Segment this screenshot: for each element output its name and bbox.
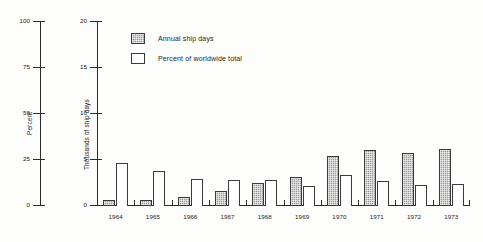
x-axis-label-1971: 1971 [358,213,395,220]
category-divider-1969 [321,200,322,206]
bar-percent-of-worldwide-total-1967 [228,180,240,206]
bar-annual-ship-days-1969 [290,177,302,206]
bar-percent-of-worldwide-total-1973 [452,184,464,206]
bar-annual-ship-days-1967 [215,191,227,206]
category-divider-1972 [433,200,434,206]
x-axis-label-1967: 1967 [209,213,246,220]
x-axis-label-1964: 1964 [97,213,134,220]
bar-percent-of-worldwide-total-1966 [191,179,203,206]
category-divider-1966 [209,200,210,206]
percent-tick-100 [33,21,45,22]
category-divider-1970 [358,200,359,206]
shipdays-tick-label-20: 20 [66,17,87,24]
bar-percent-of-worldwide-total-1972 [415,185,427,206]
bar-annual-ship-days-1966 [178,197,190,206]
plot-area: 1964196519661967196819691970197119721973 [97,20,470,206]
percent-tick-75 [33,67,45,68]
bar-percent-of-worldwide-total-1965 [153,171,165,206]
percent-tick-50 [33,113,45,114]
shipdays-tick-label-0: 0 [66,201,87,208]
x-axis-label-1970: 1970 [321,213,358,220]
percent-tick-label-25: 25 [8,155,30,162]
shipdays-tick-label-10: 10 [66,109,87,116]
percent-tick-0 [33,205,45,206]
x-axis-label-1973: 1973 [433,213,470,220]
bar-annual-ship-days-1970 [327,156,339,206]
percent-tick-label-100: 100 [8,17,30,24]
bar-annual-ship-days-1965 [140,200,152,206]
bar-percent-of-worldwide-total-1970 [340,175,352,206]
bar-annual-ship-days-1972 [402,153,414,206]
bar-annual-ship-days-1971 [364,150,376,206]
percent-tick-label-75: 75 [8,63,30,70]
x-axis-label-1972: 1972 [395,213,432,220]
category-divider-end [469,200,470,206]
percent-tick-label-50: 50 [8,109,30,116]
chart-figure: Percent 100 75 50 25 0 Thousands of ship… [0,0,483,242]
bar-percent-of-worldwide-total-1968 [265,180,277,206]
bar-percent-of-worldwide-total-1964 [116,163,128,206]
x-axis-label-1968: 1968 [246,213,283,220]
bar-annual-ship-days-1964 [103,200,115,206]
x-axis-label-1965: 1965 [134,213,171,220]
category-divider-1968 [284,200,285,206]
shipdays-tick-label-15: 15 [66,63,87,70]
category-divider-1967 [246,200,247,206]
shipdays-tick-label-5: 5 [66,155,87,162]
percent-tick-25 [33,159,45,160]
x-axis-label-1969: 1969 [284,213,321,220]
percent-tick-label-0: 0 [8,201,30,208]
category-divider-1964 [134,200,135,206]
bar-percent-of-worldwide-total-1971 [377,181,389,206]
bar-annual-ship-days-1973 [439,149,451,206]
bar-annual-ship-days-1968 [252,183,264,206]
bar-percent-of-worldwide-total-1969 [303,186,315,206]
x-axis-label-1966: 1966 [172,213,209,220]
category-divider-1971 [395,200,396,206]
category-divider-1965 [172,200,173,206]
